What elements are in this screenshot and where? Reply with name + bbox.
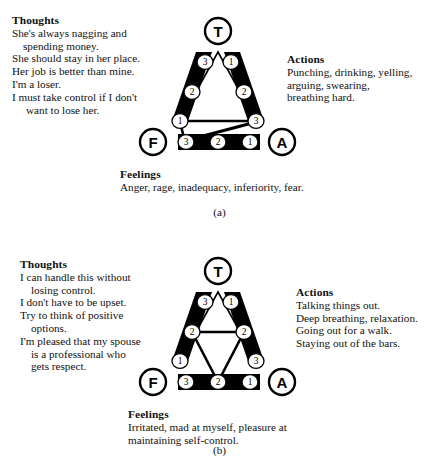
- actions-line-b-4: Staying out of the bars.: [296, 337, 439, 350]
- node-bottom-right-b: 1: [242, 375, 258, 390]
- node-left-mid-a: 2: [184, 85, 200, 100]
- node-right-bottom-a: 3: [248, 114, 264, 129]
- vertex-actions-label-a: A: [277, 134, 288, 151]
- node-left-bottom-label-b: 1: [178, 356, 183, 366]
- triangle-diagram-b: 3 2 1 1 2 3 3 2: [128, 254, 308, 414]
- vertex-feelings-label-b: F: [148, 374, 157, 391]
- vertex-thoughts-a: T: [205, 18, 231, 44]
- vertex-actions-label-b: A: [277, 374, 288, 391]
- node-bottom-left-b: 3: [178, 375, 194, 390]
- node-left-mid-label-a: 2: [190, 87, 195, 97]
- node-right-top-a: 1: [223, 55, 239, 70]
- node-bottom-right-a: 1: [242, 135, 258, 150]
- node-right-bottom-b: 3: [248, 354, 264, 369]
- vertex-thoughts-b: T: [205, 258, 231, 284]
- node-right-bottom-label-a: 3: [254, 116, 259, 126]
- actions-block-b: Actions Talking things out. Deep breathi…: [296, 286, 439, 350]
- panel-a: Thoughts She's always nagging and spendi…: [0, 0, 439, 232]
- node-left-mid-b: 2: [184, 325, 200, 340]
- node-left-top-a: 3: [197, 55, 213, 70]
- node-bottom-mid-label-b: 2: [216, 377, 221, 387]
- feelings-line-b-1: Irritated, mad at myself, pleasure at: [128, 421, 408, 434]
- vertex-thoughts-label-b: T: [213, 263, 222, 280]
- vertex-feelings-b: F: [140, 369, 166, 395]
- node-right-top-label-a: 1: [229, 57, 234, 67]
- node-left-bottom-a: 1: [172, 114, 188, 129]
- actions-line-a-3: breathing hard.: [287, 91, 437, 104]
- node-right-mid-a: 2: [236, 85, 252, 100]
- actions-line-b-2: Deep breathing, relaxation.: [296, 312, 439, 325]
- node-left-bottom-label-a: 1: [178, 116, 183, 126]
- node-left-top-label-b: 3: [203, 297, 208, 307]
- node-right-top-b: 1: [223, 295, 239, 310]
- actions-line-b-3: Going out for a walk.: [296, 324, 439, 337]
- vertex-actions-a: A: [269, 129, 295, 155]
- actions-line-a-2: arguing, swearing,: [287, 79, 437, 92]
- caption-b: (b): [0, 444, 439, 457]
- node-bottom-mid-b: 2: [210, 375, 226, 390]
- vertex-thoughts-label-a: T: [213, 23, 222, 40]
- actions-heading-a: Actions: [287, 53, 437, 66]
- node-bottom-left-label-b: 3: [184, 377, 189, 387]
- feelings-line-a-1: Anger, rage, inadequacy, inferiority, fe…: [120, 181, 390, 194]
- node-left-bottom-b: 1: [172, 354, 188, 369]
- actions-line-a-1: Punching, drinking, yelling,: [287, 66, 437, 79]
- node-bottom-mid-label-a: 2: [216, 137, 221, 147]
- node-right-mid-label-b: 2: [242, 327, 247, 337]
- node-bottom-left-a: 3: [178, 135, 194, 150]
- actions-block-a: Actions Punching, drinking, yelling, arg…: [287, 53, 437, 104]
- node-right-top-label-b: 1: [229, 297, 234, 307]
- actions-heading-b: Actions: [296, 286, 439, 299]
- node-right-mid-label-a: 2: [242, 87, 247, 97]
- node-left-top-b: 3: [197, 295, 213, 310]
- vertex-feelings-a: F: [140, 129, 166, 155]
- node-bottom-right-label-a: 1: [248, 137, 253, 147]
- node-left-mid-label-b: 2: [190, 327, 195, 337]
- caption-a: (a): [0, 206, 439, 219]
- node-right-mid-b: 2: [236, 325, 252, 340]
- node-bottom-left-label-a: 3: [184, 137, 189, 147]
- actions-line-b-1: Talking things out.: [296, 299, 439, 312]
- node-right-bottom-label-b: 3: [254, 356, 259, 366]
- vertex-actions-b: A: [269, 369, 295, 395]
- node-bottom-right-label-b: 1: [248, 377, 253, 387]
- node-left-top-label-a: 3: [203, 57, 208, 67]
- node-bottom-mid-a: 2: [210, 135, 226, 150]
- vertex-feelings-label-a: F: [148, 134, 157, 151]
- triangle-diagram-a: 3 2 1 1 2 3: [128, 14, 308, 174]
